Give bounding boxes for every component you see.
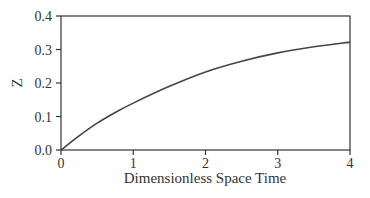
plot-area (61, 16, 350, 150)
x-tick-label: 3 (274, 156, 281, 171)
plot-frame (61, 16, 350, 150)
y-tick-label: 0.3 (35, 43, 53, 58)
x-tick-label: 1 (130, 156, 137, 171)
x-axis-label: Dimensionless Space Time (124, 170, 287, 186)
x-tick-label: 0 (58, 156, 65, 171)
chart: 01234 0.00.10.20.30.4 Dimensionless Spac… (0, 0, 370, 198)
y-tick-label: 0.1 (35, 110, 53, 125)
x-tick-label: 4 (347, 156, 354, 171)
y-tick-label: 0.2 (35, 76, 53, 91)
y-axis-ticks: 0.00.10.20.30.4 (35, 9, 62, 158)
x-axis-ticks: 01234 (58, 150, 354, 171)
y-tick-label: 0.4 (35, 9, 53, 24)
x-tick-label: 2 (202, 156, 209, 171)
y-axis-label: Z (9, 78, 25, 87)
series-line (61, 42, 350, 150)
y-tick-label: 0.0 (35, 143, 53, 158)
